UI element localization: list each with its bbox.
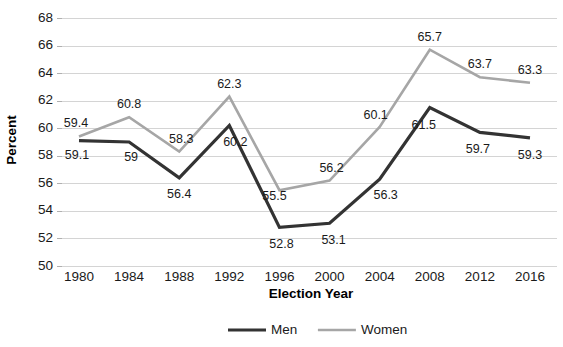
data-point-label: 59.1 — [65, 148, 89, 162]
series-line-men — [79, 108, 530, 228]
y-tick-label: 54 — [38, 202, 54, 217]
x-tick-label: 2008 — [415, 269, 445, 284]
y-tick-label: 50 — [38, 258, 53, 273]
line-chart: 50525456586062646668 1980198419881992199… — [0, 0, 563, 347]
data-point-label: 56.3 — [373, 188, 397, 202]
data-point-label: 53.1 — [321, 233, 345, 247]
data-point-label: 59.3 — [518, 148, 542, 162]
data-point-label: 59.7 — [466, 142, 490, 156]
x-tick-label: 2004 — [365, 269, 396, 284]
y-tick-label: 58 — [38, 147, 53, 162]
x-tick-label: 1984 — [114, 269, 145, 284]
x-axis-title: Election Year — [269, 286, 354, 301]
x-tick-label: 1992 — [214, 269, 244, 284]
data-point-label: 60.8 — [117, 97, 141, 111]
x-tick-label: 1988 — [164, 269, 194, 284]
x-tick-label: 2016 — [515, 269, 545, 284]
data-point-label: 61.5 — [412, 118, 436, 132]
x-tick-label: 1980 — [64, 269, 94, 284]
data-point-label: 59 — [124, 150, 138, 164]
legend-label-men[interactable]: Men — [271, 322, 297, 337]
series-line-women — [79, 50, 530, 191]
data-point-label: 60.1 — [363, 108, 387, 122]
y-tick-label: 68 — [38, 10, 53, 25]
data-point-label: 58.3 — [169, 132, 193, 146]
data-series-lines — [79, 50, 530, 228]
data-point-label: 52.8 — [269, 237, 293, 251]
y-axis-title: Percent — [4, 115, 19, 165]
data-point-label: 56.4 — [167, 187, 191, 201]
x-tick-label: 2000 — [315, 269, 345, 284]
y-tick-label: 64 — [38, 65, 54, 80]
data-point-label: 62.3 — [217, 77, 241, 91]
legend-label-women[interactable]: Women — [361, 322, 407, 337]
data-point-label: 59.4 — [64, 116, 88, 130]
data-point-labels: 59.15956.460.252.853.156.361.559.759.359… — [64, 30, 542, 252]
y-tick-label: 52 — [38, 230, 53, 245]
y-tick-label: 62 — [38, 92, 53, 107]
y-axis-tick-marks — [57, 19, 62, 267]
y-axis-tick-labels: 50525456586062646668 — [38, 10, 54, 273]
data-point-label: 63.7 — [468, 57, 492, 71]
data-point-label: 56.2 — [319, 161, 343, 175]
data-point-label: 60.2 — [223, 135, 247, 149]
data-point-label: 63.3 — [518, 63, 542, 77]
data-point-label: 65.7 — [418, 30, 442, 44]
chart-legend: MenWomen — [228, 322, 407, 337]
x-tick-label: 1996 — [264, 269, 294, 284]
data-point-label: 55.5 — [262, 189, 286, 203]
y-tick-label: 56 — [38, 175, 53, 190]
y-tick-label: 66 — [38, 37, 53, 52]
y-tick-label: 60 — [38, 120, 53, 135]
x-axis-tick-labels: 1980198419881992199620002004200820122016 — [64, 269, 545, 284]
chart-canvas: 50525456586062646668 1980198419881992199… — [0, 0, 563, 347]
x-tick-label: 2012 — [465, 269, 495, 284]
